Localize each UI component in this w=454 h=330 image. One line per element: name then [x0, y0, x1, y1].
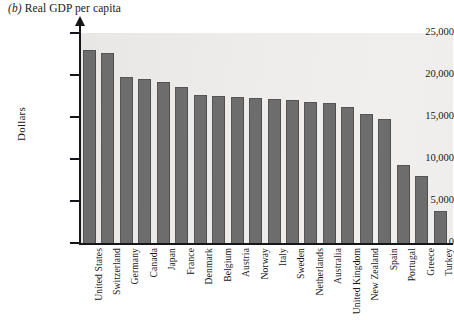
- y-axis-tick-label: 15,000: [390, 110, 454, 121]
- y-axis-title: Dollars: [15, 89, 27, 159]
- y-axis-tick: [70, 116, 80, 118]
- figure-label: (b): [8, 2, 22, 14]
- bar-austria: [231, 97, 244, 243]
- y-axis-line: [79, 25, 81, 244]
- x-axis-label-austria: Austria: [240, 248, 251, 277]
- y-axis-tick: [70, 32, 80, 34]
- x-axis-label-portugal: Portugal: [406, 248, 417, 281]
- bar-denmark: [194, 95, 207, 243]
- x-axis-label-australia: Australia: [332, 248, 343, 284]
- bar-germany: [120, 77, 133, 243]
- bar-france: [175, 87, 188, 243]
- y-axis-tick-label: 25,000: [390, 26, 454, 37]
- x-axis-label-denmark: Denmark: [203, 248, 214, 284]
- bar-united-kingdom: [341, 107, 354, 243]
- bar-greece: [415, 176, 428, 243]
- bar-norway: [249, 98, 262, 243]
- bar-australia: [323, 103, 336, 243]
- x-axis-label-united-states: United States: [93, 248, 104, 301]
- bar-spain: [378, 119, 391, 243]
- bar-italy: [268, 99, 281, 243]
- x-axis-label-united-kingdom: United Kingdom: [351, 248, 362, 314]
- x-axis-label-canada: Canada: [148, 248, 159, 277]
- x-axis-label-norway: Norway: [259, 248, 270, 280]
- chart-figure: (b) Real GDP per capita 25,00020,00015,0…: [0, 0, 454, 330]
- y-axis-tick: [70, 242, 80, 244]
- bar-belgium: [212, 96, 225, 243]
- bar-canada: [138, 79, 151, 243]
- x-axis-label-switzerland: Switzerland: [111, 248, 122, 295]
- y-axis-tick-label: 10,000: [390, 152, 454, 163]
- x-axis-label-belgium: Belgium: [222, 248, 233, 282]
- y-axis-tick: [70, 74, 80, 76]
- x-axis-label-turkey: Turkey: [443, 248, 454, 276]
- y-axis-tick: [70, 158, 80, 160]
- y-axis-tick-label: 5,000: [390, 194, 454, 205]
- x-axis-label-sweden: Sweden: [295, 248, 306, 279]
- y-axis-tick-label: 20,000: [390, 68, 454, 79]
- bar-sweden: [286, 100, 299, 243]
- page-title: (b) Real GDP per capita: [8, 2, 121, 14]
- x-axis-label-new-zealand: New Zealand: [369, 248, 380, 301]
- bar-united-states: [83, 50, 96, 243]
- y-axis-tick-label: 0: [390, 236, 454, 247]
- plot-area: [81, 33, 453, 243]
- x-axis-label-germany: Germany: [129, 248, 140, 284]
- x-axis-label-japan: Japan: [166, 248, 177, 270]
- bar-japan: [157, 82, 170, 243]
- x-axis-label-greece: Greece: [425, 248, 436, 276]
- figure-title-text: Real GDP per capita: [25, 2, 121, 14]
- bar-netherlands: [304, 102, 317, 243]
- bar-switzerland: [101, 53, 114, 243]
- x-axis-label-netherlands: Netherlands: [314, 248, 325, 295]
- x-axis-label-italy: Italy: [277, 248, 288, 266]
- x-axis-label-france: France: [185, 248, 196, 275]
- bar-new-zealand: [360, 114, 373, 243]
- x-axis-label-spain: Spain: [388, 248, 399, 270]
- y-axis-tick: [70, 200, 80, 202]
